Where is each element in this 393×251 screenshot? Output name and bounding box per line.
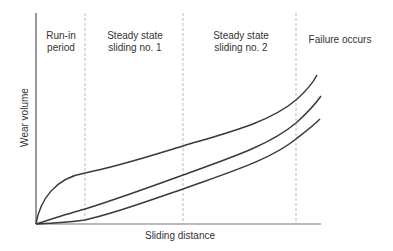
region-runin-line2: period (40, 42, 82, 54)
region-runin-label: Run-in period (40, 30, 82, 54)
curve-lower (36, 119, 320, 224)
region-failure-line1: Failure occurs (300, 34, 380, 46)
region-steady1-line2: sliding no. 1 (90, 42, 180, 54)
region-failure-label: Failure occurs (300, 34, 380, 46)
region-steady2-label: Steady state sliding no. 2 (196, 30, 286, 54)
y-axis-label: Wear volume (19, 85, 30, 151)
x-axis-label: Sliding distance (130, 230, 230, 242)
region-runin-line1: Run-in (40, 30, 82, 42)
region-steady2-line1: Steady state (196, 30, 286, 42)
region-steady2-line2: sliding no. 2 (196, 42, 286, 54)
curve-middle (36, 96, 321, 224)
region-steady1-label: Steady state sliding no. 1 (90, 30, 180, 54)
region-steady1-line1: Steady state (90, 30, 180, 42)
curve-upper (36, 75, 317, 224)
